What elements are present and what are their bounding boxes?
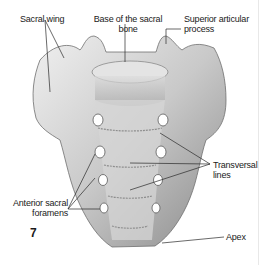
label-superior-articular-process: Superior articular process xyxy=(184,14,249,34)
label-text-line1: Anterior sacral xyxy=(0,198,68,208)
figure-number: 7 xyxy=(30,226,37,240)
label-sacral-wing: Sacral wing xyxy=(20,14,64,24)
label-base-of-sacral-bone: Base of the sacral bone xyxy=(90,14,166,34)
label-apex: Apex xyxy=(226,232,246,242)
label-text-line2: process xyxy=(184,24,249,34)
sacrum-illustration xyxy=(0,0,262,265)
label-text-line1: Base of the sacral xyxy=(90,14,166,24)
label-anterior-sacral-foramens: Anterior sacral foramens xyxy=(0,198,68,218)
label-text-line2: lines xyxy=(213,170,257,180)
label-text-line2: bone xyxy=(90,24,166,34)
page-edge-divider xyxy=(258,0,259,265)
label-text: Sacral wing xyxy=(20,14,64,24)
label-text-line2: foramens xyxy=(0,208,68,218)
label-transversal-lines: Transversal lines xyxy=(213,160,257,180)
label-text-line1: Superior articular xyxy=(184,14,249,24)
label-text: Apex xyxy=(226,232,246,242)
label-text-line1: Transversal xyxy=(213,160,257,170)
